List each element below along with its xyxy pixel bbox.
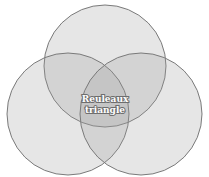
reuleaux-label-line2: triangle — [85, 105, 125, 115]
reuleaux-label-line1: Reuleaux — [82, 94, 129, 104]
circles-group — [7, 5, 202, 175]
reuleaux-triangle-diagram: Reuleaux triangle — [0, 0, 209, 177]
